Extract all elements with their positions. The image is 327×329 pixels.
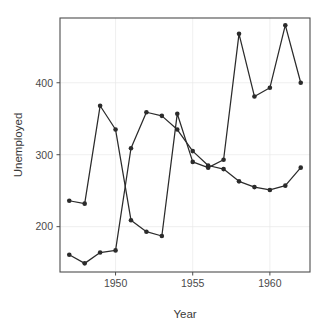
data-point-marker (206, 163, 211, 168)
data-point-marker (237, 32, 242, 37)
data-point-marker (160, 234, 165, 239)
data-point-marker (237, 179, 242, 184)
data-point-marker (252, 94, 257, 99)
data-point-marker (82, 261, 87, 266)
y-axis-title: Unemployed (12, 113, 24, 178)
data-point-marker (268, 188, 273, 193)
x-axis: 195019551960 (104, 272, 282, 289)
x-tick-label: 1955 (181, 277, 205, 289)
x-tick-label: 1960 (258, 277, 282, 289)
data-point-marker (221, 157, 226, 162)
data-point-marker (67, 198, 72, 203)
data-point-marker (283, 23, 288, 28)
data-point-marker (82, 201, 87, 206)
data-point-marker (98, 103, 103, 108)
data-point-marker (283, 183, 288, 188)
y-tick-label: 200 (35, 220, 53, 232)
y-tick-label: 400 (35, 77, 53, 89)
data-point-marker (252, 185, 257, 190)
data-point-marker (175, 127, 180, 132)
data-point-marker (113, 248, 118, 253)
data-point-marker (268, 86, 273, 91)
x-tick-label: 1950 (104, 277, 128, 289)
data-point-marker (129, 146, 134, 151)
data-point-marker (221, 167, 226, 172)
data-point-marker (298, 80, 303, 85)
data-point-marker (129, 218, 134, 223)
data-point-marker (298, 165, 303, 170)
data-point-marker (67, 252, 72, 257)
y-axis: 200300400 (35, 77, 60, 233)
data-point-marker (190, 160, 195, 165)
y-tick-label: 300 (35, 149, 53, 161)
data-point-marker (144, 229, 149, 234)
unemployed-vs-year-line-chart: 200300400 195019551960 Year Unemployed (0, 0, 327, 329)
data-point-marker (113, 127, 118, 132)
x-axis-title: Year (173, 308, 196, 320)
data-point-marker (175, 111, 180, 116)
plot-panel-background (60, 18, 310, 272)
data-point-marker (144, 110, 149, 115)
data-point-marker (98, 250, 103, 255)
chart-screenshot: 200300400 195019551960 Year Unemployed (0, 0, 327, 329)
data-point-marker (190, 149, 195, 154)
data-point-marker (160, 114, 165, 119)
